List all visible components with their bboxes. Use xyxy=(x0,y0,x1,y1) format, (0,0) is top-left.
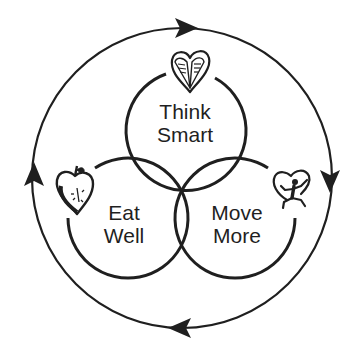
think-smart-line-2: Smart xyxy=(157,123,213,146)
eat-well-line-1: Eat xyxy=(108,201,140,224)
arrow-right-down-icon xyxy=(320,170,340,193)
label-eat-well: Eat Well xyxy=(104,201,144,247)
heart-runner-icon xyxy=(274,171,310,208)
heart-book-icon xyxy=(172,51,210,92)
label-think-smart: Think Smart xyxy=(157,100,213,146)
move-more-line-2: More xyxy=(213,224,261,247)
heart-apple-icon xyxy=(57,166,93,214)
label-move-more: Move More xyxy=(211,201,262,247)
arrow-left-up-icon xyxy=(24,162,44,186)
eat-well-line-2: Well xyxy=(104,224,144,247)
think-smart-line-1: Think xyxy=(159,100,211,123)
venn-cycle-diagram: Think Smart Eat Well Move More xyxy=(0,0,360,343)
diagram-stage: Think Smart Eat Well Move More xyxy=(0,0,360,343)
move-more-line-1: Move xyxy=(211,201,262,224)
